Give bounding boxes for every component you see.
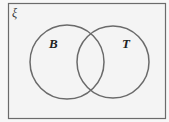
venn-diagram: ξ B T	[0, 0, 169, 122]
set-t-label: T	[122, 36, 131, 51]
universal-set-frame	[9, 4, 166, 119]
universal-set-symbol: ξ	[12, 6, 18, 20]
set-b-label: B	[48, 36, 58, 51]
